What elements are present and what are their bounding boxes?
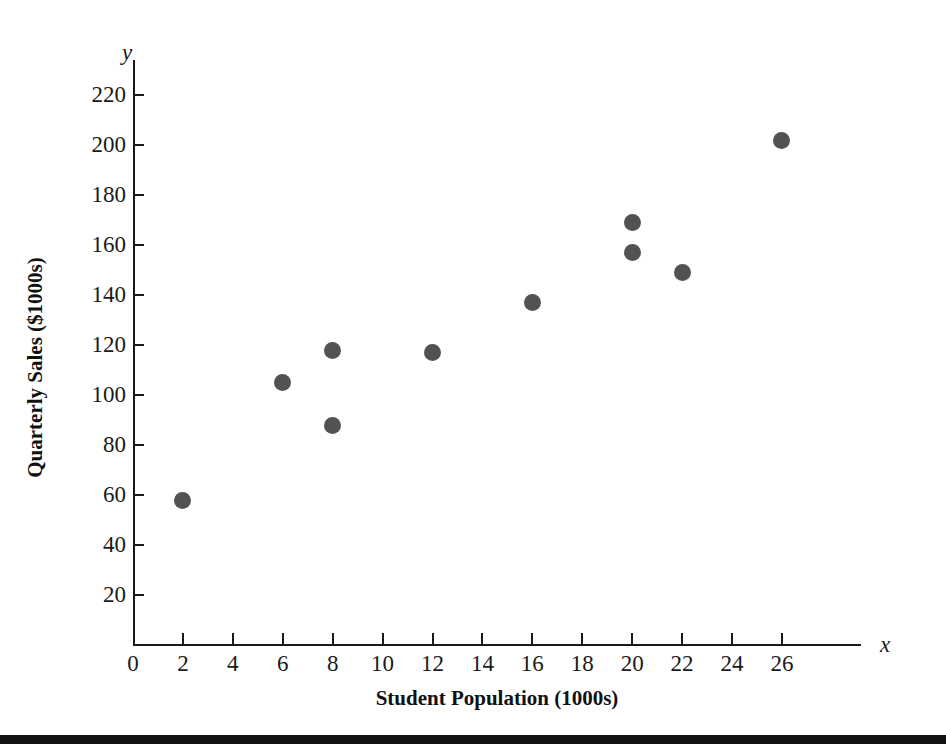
y-tick-mark [133, 144, 144, 146]
scatter-plot-figure: y x 20406080100120140160180200220 024681… [0, 0, 946, 751]
x-tick-mark [332, 633, 334, 644]
x-axis-line [133, 644, 861, 646]
x-axis-symbol: x [880, 632, 890, 658]
x-tick-label: 2 [177, 652, 189, 675]
x-tick-mark [382, 633, 384, 644]
x-tick-mark [681, 633, 683, 644]
x-tick-mark [631, 633, 633, 644]
y-tick-mark [133, 244, 144, 246]
plot-area: y x 20406080100120140160180200220 024681… [0, 0, 946, 700]
y-axis-line [133, 60, 135, 646]
data-point [524, 294, 541, 311]
data-point [624, 244, 641, 261]
data-point [773, 132, 790, 149]
x-tick-mark [432, 633, 434, 644]
y-tick-mark [133, 194, 144, 196]
y-tick-label: 200 [74, 133, 126, 156]
x-tick-mark [232, 633, 234, 644]
x-tick-label: 14 [471, 652, 494, 675]
y-tick-mark [133, 444, 144, 446]
x-axis-title: Student Population (1000s) [133, 686, 861, 711]
x-tick-mark [282, 633, 284, 644]
y-tick-mark [133, 94, 144, 96]
x-tick-mark [781, 633, 783, 644]
x-tick-label: 18 [571, 652, 594, 675]
y-tick-label: 80 [74, 433, 126, 456]
y-tick-label: 220 [74, 83, 126, 106]
y-tick-mark [133, 544, 144, 546]
x-tick-label: 10 [371, 652, 394, 675]
x-tick-label: 8 [327, 652, 339, 675]
y-tick-label: 180 [74, 183, 126, 206]
y-tick-mark [133, 494, 144, 496]
x-tick-mark [731, 633, 733, 644]
x-tick-label: 22 [671, 652, 694, 675]
x-tick-label: 24 [721, 652, 744, 675]
y-tick-label: 120 [74, 333, 126, 356]
y-tick-label: 20 [74, 583, 126, 606]
data-point [324, 342, 341, 359]
bottom-rule [0, 735, 946, 744]
x-tick-mark [182, 633, 184, 644]
x-tick-label: 16 [521, 652, 544, 675]
y-tick-mark [133, 344, 144, 346]
data-point [274, 374, 291, 391]
y-axis-title: Quarterly Sales ($1000s) [23, 168, 48, 568]
x-tick-label: 26 [770, 652, 793, 675]
y-tick-mark [133, 394, 144, 396]
y-tick-mark [133, 594, 144, 596]
x-tick-label: 12 [421, 652, 444, 675]
x-tick-mark [531, 633, 533, 644]
data-point [174, 492, 191, 509]
data-point [324, 417, 341, 434]
y-tick-label: 60 [74, 483, 126, 506]
y-tick-label: 100 [74, 383, 126, 406]
x-tick-label: 0 [127, 652, 139, 675]
y-tick-mark [133, 294, 144, 296]
y-tick-label: 160 [74, 233, 126, 256]
data-point [424, 344, 441, 361]
y-tick-label: 40 [74, 533, 126, 556]
data-point [674, 264, 691, 281]
x-tick-label: 4 [227, 652, 239, 675]
x-tick-mark [581, 633, 583, 644]
x-tick-label: 6 [277, 652, 289, 675]
x-tick-label: 20 [621, 652, 644, 675]
x-tick-mark [481, 633, 483, 644]
data-point [624, 214, 641, 231]
y-axis-symbol: y [122, 40, 132, 66]
y-tick-label: 140 [74, 283, 126, 306]
